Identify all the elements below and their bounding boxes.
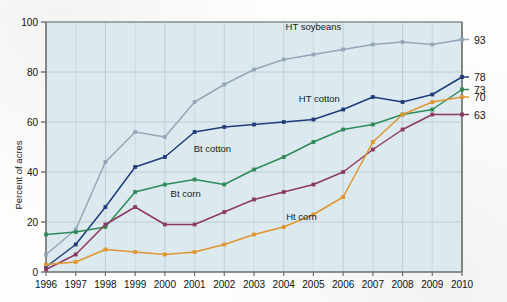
x-tick-label: 2009 bbox=[421, 279, 444, 290]
series-label-ht-corn: Ht corn bbox=[286, 211, 317, 222]
data-point-marker bbox=[401, 128, 405, 132]
data-point-marker bbox=[222, 243, 226, 247]
x-tick-label: 1996 bbox=[35, 279, 58, 290]
end-value-label-ht-soybeans: 93 bbox=[474, 34, 486, 46]
data-point-marker bbox=[371, 123, 375, 127]
data-point-marker bbox=[430, 108, 434, 112]
series-label-bt-cotton: Bt cotton bbox=[194, 143, 232, 154]
data-point-marker bbox=[341, 108, 345, 112]
x-axis-ticks: 1996199719981999200020012002200320042005… bbox=[35, 272, 474, 290]
y-tick-label: 100 bbox=[21, 17, 38, 28]
end-value-labels: 9378736370 bbox=[460, 34, 486, 121]
x-tick-label: 2000 bbox=[154, 279, 177, 290]
data-point-marker bbox=[74, 253, 78, 257]
x-tick-label: 1998 bbox=[94, 279, 117, 290]
data-point-marker bbox=[193, 100, 197, 104]
data-point-marker bbox=[104, 248, 108, 252]
data-point-marker bbox=[163, 155, 167, 159]
data-point-marker bbox=[252, 233, 256, 237]
data-point-marker bbox=[282, 120, 286, 124]
data-point-marker bbox=[133, 250, 137, 254]
data-point-marker bbox=[222, 183, 226, 187]
data-point-marker bbox=[193, 130, 197, 134]
data-point-marker bbox=[44, 233, 48, 237]
y-tick-label: 0 bbox=[32, 267, 38, 278]
x-tick-label: 2010 bbox=[451, 279, 474, 290]
data-point-marker bbox=[282, 58, 286, 62]
end-value-label-ht-corn: 70 bbox=[474, 91, 486, 103]
data-point-marker bbox=[222, 125, 226, 129]
data-point-marker bbox=[252, 168, 256, 172]
x-tick-label: 2003 bbox=[243, 279, 266, 290]
data-point-marker bbox=[341, 48, 345, 52]
series-label-ht-cotton: HT cotton bbox=[299, 93, 340, 104]
line-chart: 020406080100 199619971998199920002001200… bbox=[0, 0, 507, 302]
data-point-marker bbox=[44, 268, 48, 272]
data-point-marker bbox=[401, 40, 405, 44]
end-value-label-bt-corn: 63 bbox=[474, 109, 486, 121]
y-tick-label: 20 bbox=[27, 217, 39, 228]
data-point-marker bbox=[193, 250, 197, 254]
x-tick-label: 2002 bbox=[213, 279, 236, 290]
x-tick-label: 2007 bbox=[362, 279, 385, 290]
data-point-marker bbox=[133, 130, 137, 134]
data-point-marker bbox=[371, 140, 375, 144]
end-point-marker bbox=[460, 37, 464, 41]
y-tick-label: 60 bbox=[27, 117, 39, 128]
data-point-marker bbox=[163, 223, 167, 227]
data-point-marker bbox=[312, 118, 316, 122]
data-point-marker bbox=[430, 93, 434, 97]
data-point-marker bbox=[282, 225, 286, 229]
data-point-marker bbox=[312, 53, 316, 57]
y-tick-label: 80 bbox=[27, 67, 39, 78]
x-tick-label: 2001 bbox=[183, 279, 206, 290]
end-point-marker bbox=[460, 75, 464, 79]
data-point-marker bbox=[430, 100, 434, 104]
data-point-marker bbox=[371, 95, 375, 99]
series-label-bt-corn: Bt corn bbox=[171, 188, 201, 199]
data-point-marker bbox=[193, 178, 197, 182]
data-point-marker bbox=[222, 83, 226, 87]
data-point-marker bbox=[104, 205, 108, 209]
data-point-marker bbox=[163, 135, 167, 139]
data-point-marker bbox=[133, 190, 137, 194]
data-point-marker bbox=[371, 148, 375, 152]
data-point-marker bbox=[430, 43, 434, 47]
data-point-marker bbox=[74, 260, 78, 264]
data-point-marker bbox=[252, 123, 256, 127]
x-tick-label: 2005 bbox=[302, 279, 325, 290]
x-tick-label: 2008 bbox=[391, 279, 414, 290]
data-point-marker bbox=[430, 113, 434, 117]
data-point-marker bbox=[163, 183, 167, 187]
data-point-marker bbox=[44, 253, 48, 257]
end-point-marker bbox=[460, 95, 464, 99]
data-point-marker bbox=[282, 190, 286, 194]
chart-figure: 020406080100 199619971998199920002001200… bbox=[0, 0, 507, 302]
data-point-marker bbox=[341, 170, 345, 174]
data-point-marker bbox=[74, 243, 78, 247]
x-tick-label: 1999 bbox=[124, 279, 147, 290]
data-point-marker bbox=[74, 230, 78, 234]
data-point-marker bbox=[282, 155, 286, 159]
data-point-marker bbox=[252, 68, 256, 72]
end-value-label-ht-cotton: 78 bbox=[474, 71, 486, 83]
data-point-marker bbox=[104, 223, 108, 227]
data-point-marker bbox=[193, 223, 197, 227]
data-point-marker bbox=[401, 113, 405, 117]
data-point-marker bbox=[222, 210, 226, 214]
data-point-marker bbox=[341, 128, 345, 132]
data-point-marker bbox=[44, 263, 48, 267]
data-point-marker bbox=[371, 43, 375, 47]
data-point-marker bbox=[312, 183, 316, 187]
x-tick-label: 2004 bbox=[273, 279, 296, 290]
data-point-marker bbox=[133, 165, 137, 169]
y-axis-ticks: 020406080100 bbox=[21, 17, 46, 278]
x-tick-label: 2006 bbox=[332, 279, 355, 290]
y-tick-label: 40 bbox=[27, 167, 39, 178]
data-point-marker bbox=[163, 253, 167, 257]
data-point-marker bbox=[133, 205, 137, 209]
data-point-marker bbox=[341, 195, 345, 199]
data-point-marker bbox=[104, 160, 108, 164]
data-point-marker bbox=[401, 100, 405, 104]
data-point-marker bbox=[312, 140, 316, 144]
